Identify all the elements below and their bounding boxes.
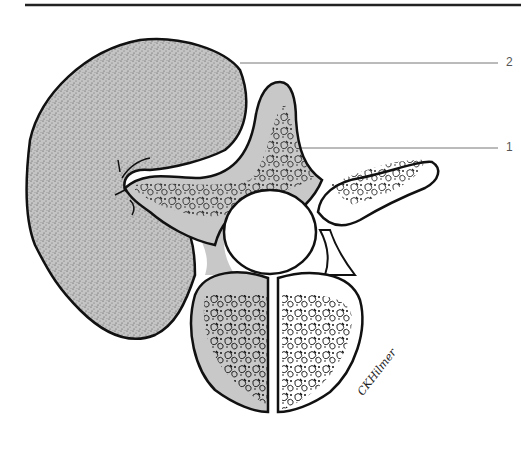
right-pedicle <box>320 230 355 275</box>
label-2: 2 <box>506 55 513 69</box>
vertebra-illustration <box>0 0 521 457</box>
spinal-canal <box>224 190 316 274</box>
label-1: 1 <box>506 140 513 154</box>
